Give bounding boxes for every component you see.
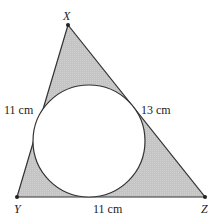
- side-xy-label: 11 cm: [4, 103, 34, 117]
- vertex-z-point: [203, 195, 207, 199]
- vertex-z-label: Z: [201, 202, 208, 216]
- vertex-x-point: [66, 23, 70, 27]
- inscribed-circle: [33, 85, 145, 197]
- side-yz-label: 11 cm: [93, 202, 123, 216]
- vertex-y-point: [15, 195, 19, 199]
- vertex-x-label: X: [62, 9, 71, 23]
- triangle-diagram: X Y Z 11 cm 13 cm 11 cm: [0, 0, 213, 218]
- side-xz-label: 13 cm: [141, 103, 171, 117]
- vertex-y-label: Y: [14, 202, 22, 216]
